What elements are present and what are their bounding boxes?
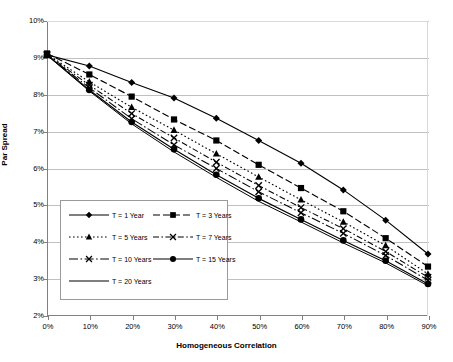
- legend-label: T = 1 Year: [112, 212, 144, 219]
- legend-item[interactable]: T = 3 Years: [151, 207, 231, 223]
- legend-label: T = 20 Years: [112, 278, 151, 285]
- legend-label: T = 15 Years: [196, 256, 235, 263]
- chart-legend: T = 1 YearT = 3 YearsT = 5 YearsT = 7 Ye…: [60, 200, 228, 300]
- legend-item[interactable]: T = 15 Years: [151, 251, 235, 267]
- legend-label: T = 3 Years: [196, 212, 231, 219]
- legend-swatch: [67, 208, 111, 222]
- chart-root: 10%9%8%7%6%5%4%3%2% 0%10%20%30%40%50%60%…: [0, 0, 453, 362]
- legend-swatch: [67, 230, 111, 244]
- legend-item[interactable]: T = 10 Years: [67, 251, 151, 267]
- legend-item[interactable]: T = 7 Years: [151, 229, 231, 245]
- legend-item[interactable]: T = 5 Years: [67, 229, 147, 245]
- legend-label: T = 7 Years: [196, 234, 231, 241]
- series-layer: [0, 0, 453, 362]
- legend-item[interactable]: T = 20 Years: [67, 273, 151, 289]
- legend-label: T = 10 Years: [112, 256, 151, 263]
- x-axis-title: Homogeneous Correlation: [0, 341, 453, 350]
- legend-swatch: [151, 252, 195, 266]
- legend-item[interactable]: T = 1 Year: [67, 207, 144, 223]
- legend-label: T = 5 Years: [112, 234, 147, 241]
- legend-swatch: [151, 208, 195, 222]
- y-axis-title: Par Spread: [0, 95, 9, 195]
- legend-swatch: [67, 252, 111, 266]
- legend-swatch: [67, 274, 111, 288]
- legend-swatch: [151, 230, 195, 244]
